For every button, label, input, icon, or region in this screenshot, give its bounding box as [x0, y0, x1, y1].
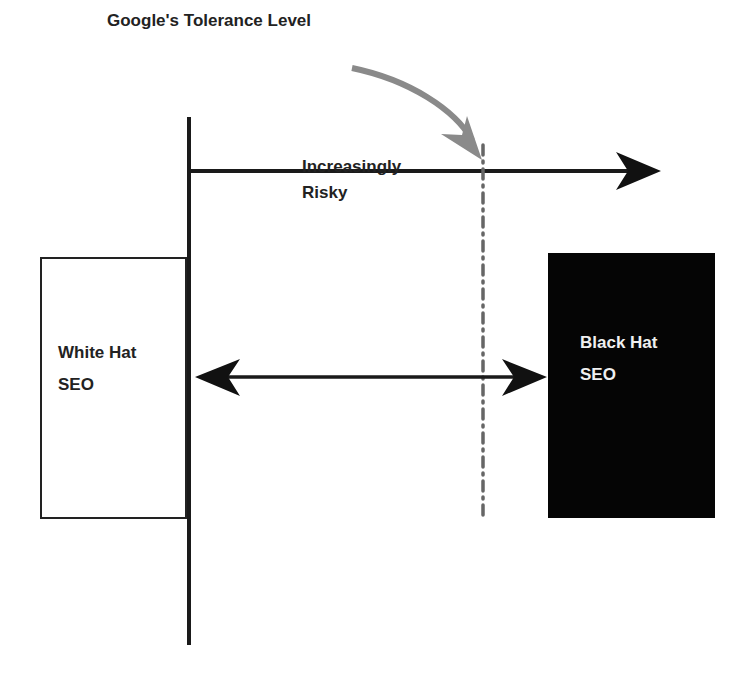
black-hat-label-line1: Black Hat [580, 327, 657, 359]
risk-axis-label: Increasingly Risky [302, 154, 401, 206]
risk-arrow-icon [189, 152, 661, 190]
curved-pointer-arrow-icon [352, 68, 482, 160]
risk-label-line2: Risky [302, 180, 401, 206]
white-hat-label-line1: White Hat [58, 337, 136, 369]
risk-label-line1: Increasingly [302, 154, 401, 180]
double-headed-arrow-icon [195, 359, 547, 396]
black-hat-label: Black Hat SEO [580, 327, 657, 391]
title-text: Google's Tolerance Level [107, 11, 311, 30]
black-hat-label-line2: SEO [580, 359, 657, 391]
tolerance-level-title: Google's Tolerance Level [107, 6, 311, 36]
white-hat-label-line2: SEO [58, 369, 136, 401]
white-hat-label: White Hat SEO [58, 337, 136, 401]
